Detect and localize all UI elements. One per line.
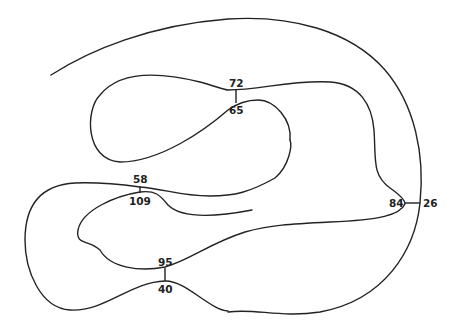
- marker-label-95: 95: [158, 257, 173, 268]
- marker-label-84: 84: [389, 198, 404, 209]
- marker-label-40: 40: [158, 284, 173, 295]
- marker-label-72: 72: [229, 78, 244, 89]
- marker-label-58: 58: [133, 174, 148, 185]
- curve-diagram: [0, 0, 456, 327]
- outer-arc-curve: [51, 18, 421, 314]
- marker-label-65: 65: [229, 105, 244, 116]
- marker-label-26: 26: [423, 198, 438, 209]
- marker-label-109: 109: [129, 196, 151, 207]
